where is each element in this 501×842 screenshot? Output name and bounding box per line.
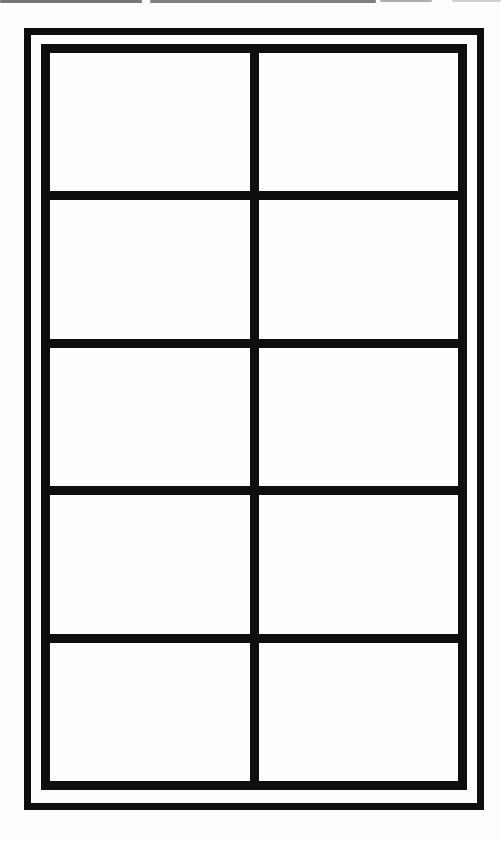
grid-cell-r3-c1 [50, 348, 250, 486]
grid-cell-r1-c2 [259, 53, 459, 191]
grid-cell-r4-c2 [259, 495, 459, 633]
scanned-worksheet-page [0, 0, 501, 842]
grid-cell-r4-c1 [50, 495, 250, 633]
grid-cell-r5-c1 [50, 643, 250, 781]
scan-artifact-segment [150, 0, 376, 3]
scan-artifact-segment [452, 0, 501, 2]
grid-cell-r2-c1 [50, 200, 250, 338]
ten-frame-grid [41, 44, 467, 790]
scan-artifact-segment [0, 0, 142, 3]
grid-cell-r2-c2 [259, 200, 459, 338]
grid-cell-r1-c1 [50, 53, 250, 191]
scan-artifact-segment [380, 0, 432, 2]
grid-cell-r5-c2 [259, 643, 459, 781]
grid-cell-r3-c2 [259, 348, 459, 486]
